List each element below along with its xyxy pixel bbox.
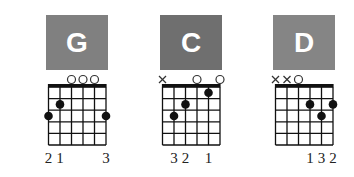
chord-name: D	[294, 27, 314, 59]
chord-diagram	[160, 72, 222, 148]
chord-d: D 132	[273, 0, 343, 177]
finger-number: 3	[170, 150, 178, 167]
chord-label-box: G	[46, 15, 108, 70]
chord-name: G	[66, 27, 88, 59]
open-string-icon	[79, 76, 87, 84]
chord-label-box: C	[160, 15, 222, 70]
chord-label-box: D	[273, 15, 335, 70]
finger-dot	[204, 89, 213, 98]
nut	[48, 84, 107, 87]
finger-numbers: 213	[46, 150, 116, 168]
open-string-icon	[295, 76, 303, 84]
finger-number: 1	[205, 150, 213, 167]
chord-diagram	[273, 72, 335, 148]
finger-number: 2	[45, 150, 53, 167]
finger-dot	[56, 100, 65, 109]
open-string-icon	[91, 76, 99, 84]
open-string-icon	[68, 76, 76, 84]
finger-dot	[317, 112, 326, 121]
chord-diagram	[46, 72, 108, 148]
finger-dot	[306, 100, 315, 109]
finger-dot	[181, 100, 190, 109]
finger-number: 2	[329, 150, 337, 167]
finger-number: 3	[102, 150, 110, 167]
finger-dot	[44, 112, 53, 121]
open-string-icon	[216, 76, 224, 84]
nut	[162, 84, 221, 87]
finger-numbers: 321	[160, 150, 230, 168]
chord-name: C	[181, 27, 201, 59]
finger-number: 3	[318, 150, 326, 167]
finger-dot	[329, 100, 338, 109]
finger-number: 1	[306, 150, 314, 167]
chord-g: G 213	[46, 0, 116, 177]
finger-numbers: 132	[273, 150, 343, 168]
finger-number: 1	[56, 150, 64, 167]
open-string-icon	[193, 76, 201, 84]
finger-number: 2	[182, 150, 190, 167]
chord-c: C 321	[160, 0, 230, 177]
finger-dot	[170, 112, 179, 121]
finger-dot	[102, 112, 111, 121]
nut	[275, 84, 334, 87]
